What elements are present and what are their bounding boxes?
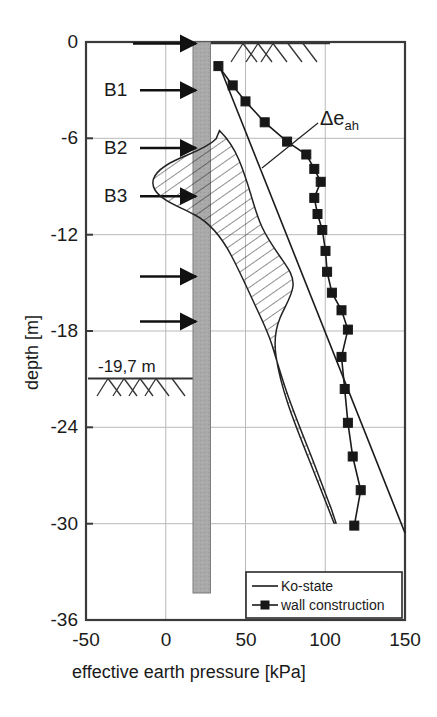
ground-surface-hatch-right	[210, 44, 330, 63]
delta-eah-annotation: Δeah	[320, 108, 359, 132]
legend-label-wall-construction: wall construction	[281, 598, 385, 612]
retaining-wall	[193, 42, 211, 593]
y-tick-label-minus12: -12	[24, 225, 78, 244]
delta-eah-subscript: ah	[344, 118, 358, 133]
anchor-label-b1: B1	[104, 80, 127, 99]
y-tick-label-minus6: -6	[34, 128, 78, 147]
delta-eah-main: Δe	[320, 107, 344, 129]
x-axis-title: effective earth pressure [kPa]	[72, 663, 306, 681]
x-tick-label-150: 150	[375, 630, 435, 649]
excavation-level-hatch	[88, 379, 193, 397]
anchor-label-b2: B2	[104, 138, 127, 157]
y-axis-title: depth [m]	[22, 315, 43, 390]
x-tick-label-100: 100	[295, 630, 355, 649]
y-tick-label-minus36: -36	[24, 610, 78, 629]
excavation-level-label: -19,7 m	[98, 358, 156, 375]
figure-container: 0 -6 -12 -18 -24 -30 -36 depth [m] -50 0…	[0, 0, 437, 717]
anchor-label-b3: B3	[104, 186, 127, 205]
x-tick-label-50: 50	[216, 630, 276, 649]
x-tick-label-minus50: -50	[56, 630, 116, 649]
y-tick-label-0: 0	[44, 32, 78, 51]
legend-label-ko-state: Ko-state	[281, 579, 333, 593]
delta-eah-hatched-area	[153, 131, 336, 524]
y-tick-label-minus24: -24	[24, 417, 78, 436]
legend-swatch-wall-marker	[261, 601, 270, 610]
y-tick-label-minus30: -30	[24, 514, 78, 533]
x-tick-label-0: 0	[136, 630, 196, 649]
